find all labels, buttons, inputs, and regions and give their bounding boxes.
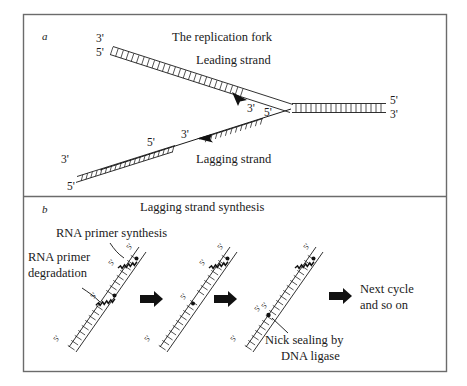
panel-b-title: Lagging strand synthesis [140,200,264,214]
stage-arrow-2 [214,291,237,307]
rna-primer-degradation-label-line1: RNA primer [28,250,91,264]
next-cycle-label-line1: Next cycle [360,282,414,296]
lagging-strand-label: Lagging strand [196,152,272,166]
prime-top-left-lower: 5' [96,46,104,58]
stage-2-primer-dot-mid [191,302,195,306]
stage-3-primer-dot-upper [312,257,316,261]
prime-right-lower: 3' [390,108,398,120]
figure-border [24,15,447,372]
figure-canvas: a The replication fork [0,0,467,386]
stage-1-prime-bottom: 5' [51,333,62,343]
rna-primer-synthesis-label: RNA primer synthesis [56,226,167,240]
prime-lagging-mid-5: 5' [147,136,155,148]
panel-a-letter: a [42,30,48,42]
lagging-strand-direction-arrow [197,134,213,143]
figure-root: a The replication fork [0,0,467,386]
stage-1-prime-upper-a: 5' [106,257,117,267]
leading-strand-direction-arrow [232,92,247,106]
stage-2-prime-bottom: 5' [142,333,153,343]
nick-sealing-label-line1: Nick sealing by [265,333,344,347]
nick-sealing-leader [272,318,288,333]
panel-a-title: The replication fork [172,30,273,44]
prime-leading-arrow-end: 3' [247,102,255,114]
stage-1-primer-dot-lower [113,294,117,298]
stage-3-prime-bottom: 5' [228,333,239,343]
leading-strand-label: Leading strand [196,53,271,67]
stage-3-prime-upper: 5' [301,241,312,251]
prime-lagging-fragment-new-3: 3' [181,128,189,140]
prime-right-upper: 5' [390,94,398,106]
panel-b: b Lagging strand synthesis [28,200,414,363]
stage-2-prime-upper-a: 5' [197,257,208,267]
prime-top-left-upper: 3' [96,32,104,44]
stage-1-prime-upper-b: 5' [124,241,135,251]
rna-primer-synthesis-leader [110,243,124,258]
stage-2-prime-mid: 5' [178,291,189,301]
stage-arrow-3 [329,288,352,304]
panel-b-letter: b [42,203,48,215]
nick-sealing-label-line2: DNA ligase [281,349,340,363]
next-cycle-label-line2: and so on [360,298,409,312]
prime-bottom-left-upper: 3' [61,153,69,165]
stage-3-nick-dot [266,313,270,317]
stage-2-prime-upper-b: 5' [215,241,226,251]
stage-1-primer-dot-upper [135,257,139,261]
stage-arrow-1 [140,291,163,307]
stage-1-prime-mid: 5' [88,290,99,300]
parental-duplex [292,104,386,113]
panel-a: a The replication fork [42,30,398,192]
prime-lagging-fragment-new-5: 5' [264,106,272,118]
rna-primer-degradation-label-line2: degradation [28,266,88,280]
stage-2-primer-dot-upper [226,257,230,261]
prime-bottom-left-lower: 5' [67,180,75,192]
